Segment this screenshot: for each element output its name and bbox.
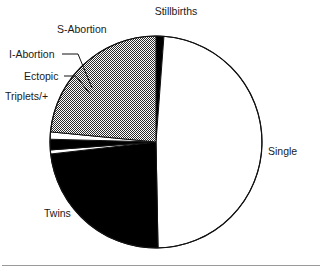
pie-label-s-abortion: S-Abortion xyxy=(57,23,107,35)
pie-chart-figure: StillbirthsSingleTwinsTriplets/+EctopicI… xyxy=(0,0,323,274)
pie-slice-s-abortion[interactable] xyxy=(50,36,156,142)
pie-label-twins: Twins xyxy=(44,207,71,219)
footer-divider-rule xyxy=(2,265,320,266)
pie-label-i-abortion: I-Abortion xyxy=(9,48,55,60)
pie-label-stillbirths: Stillbirths xyxy=(155,5,198,17)
pie-label-triplets: Triplets/+ xyxy=(5,90,48,102)
pie-label-ectopic: Ectopic xyxy=(24,70,58,82)
pie-chart-svg: StillbirthsSingleTwinsTriplets/+EctopicI… xyxy=(0,0,323,274)
pie-slices xyxy=(50,36,262,248)
pie-label-single: Single xyxy=(268,145,297,157)
pie-slice-single[interactable] xyxy=(156,36,262,248)
pie-slice-twins[interactable] xyxy=(51,142,158,248)
